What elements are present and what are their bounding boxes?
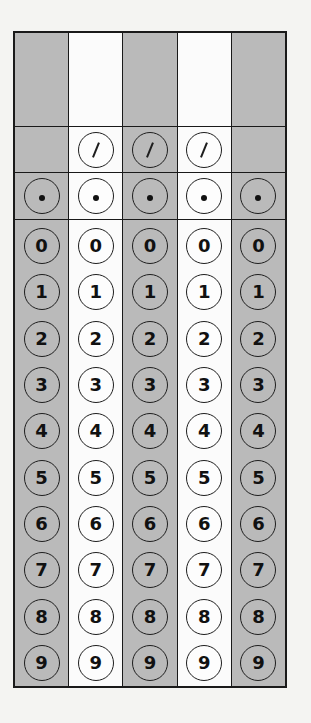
decimal-row-cell xyxy=(232,173,285,220)
digit-cell: 3 xyxy=(232,362,285,408)
digit-bubble-5[interactable]: 5 xyxy=(24,460,60,496)
digit-bubble-3[interactable]: 3 xyxy=(186,367,222,403)
digit-bubble-9[interactable]: 9 xyxy=(132,645,168,681)
answer-column-4: 0123456789 xyxy=(178,33,232,686)
digit-bubble-3[interactable]: 3 xyxy=(240,367,276,403)
digit-bubble-4[interactable]: 4 xyxy=(186,413,222,449)
digit-cell: 9 xyxy=(15,640,68,686)
digit-cell: 1 xyxy=(123,269,176,315)
grid-in-answer-sheet: 0123456789012345678901234567890123456789… xyxy=(13,31,287,688)
digit-cell: 7 xyxy=(178,547,231,593)
digit-cell: 5 xyxy=(69,454,122,500)
digit-cell: 0 xyxy=(178,223,231,269)
digit-bubble-1[interactable]: 1 xyxy=(78,274,114,310)
digit-bubble-0[interactable]: 0 xyxy=(186,228,222,264)
digit-bubbles: 0123456789 xyxy=(232,220,285,686)
digit-bubble-9[interactable]: 9 xyxy=(240,645,276,681)
digit-bubble-6[interactable]: 6 xyxy=(24,506,60,542)
digit-bubble-8[interactable]: 8 xyxy=(24,599,60,635)
digit-bubble-8[interactable]: 8 xyxy=(132,599,168,635)
digit-bubble-9[interactable]: 9 xyxy=(24,645,60,681)
slash-icon xyxy=(92,142,99,157)
digit-bubble-4[interactable]: 4 xyxy=(24,413,60,449)
digit-bubble-6[interactable]: 6 xyxy=(78,506,114,542)
dot-icon xyxy=(201,195,207,201)
decimal-point-bubble[interactable] xyxy=(186,178,222,214)
digit-bubble-4[interactable]: 4 xyxy=(240,413,276,449)
digit-bubble-9[interactable]: 9 xyxy=(186,645,222,681)
slash-bubble[interactable] xyxy=(132,132,168,168)
digit-cell: 7 xyxy=(232,547,285,593)
answer-column-5: 0123456789 xyxy=(232,33,285,686)
digit-bubble-7[interactable]: 7 xyxy=(78,552,114,588)
digit-bubble-5[interactable]: 5 xyxy=(78,460,114,496)
digit-bubble-0[interactable]: 0 xyxy=(24,228,60,264)
digit-cell: 2 xyxy=(232,316,285,362)
decimal-point-bubble[interactable] xyxy=(78,178,114,214)
digit-bubble-0[interactable]: 0 xyxy=(78,228,114,264)
digit-bubble-2[interactable]: 2 xyxy=(132,321,168,357)
digit-bubble-5[interactable]: 5 xyxy=(132,460,168,496)
answer-column-3: 0123456789 xyxy=(123,33,177,686)
digit-bubble-7[interactable]: 7 xyxy=(24,552,60,588)
dot-icon xyxy=(255,195,261,201)
digit-bubble-1[interactable]: 1 xyxy=(186,274,222,310)
digit-cell: 0 xyxy=(69,223,122,269)
digit-cell: 2 xyxy=(123,316,176,362)
decimal-point-bubble[interactable] xyxy=(132,178,168,214)
digit-bubble-4[interactable]: 4 xyxy=(78,413,114,449)
write-in-box-2[interactable] xyxy=(69,33,122,127)
decimal-point-bubble[interactable] xyxy=(24,178,60,214)
digit-bubble-2[interactable]: 2 xyxy=(186,321,222,357)
digit-bubble-1[interactable]: 1 xyxy=(240,274,276,310)
digit-bubble-5[interactable]: 5 xyxy=(240,460,276,496)
digit-bubble-7[interactable]: 7 xyxy=(132,552,168,588)
write-in-box-5[interactable] xyxy=(232,33,285,127)
decimal-point-bubble[interactable] xyxy=(240,178,276,214)
decimal-row-cell xyxy=(15,173,68,220)
digit-bubble-5[interactable]: 5 xyxy=(186,460,222,496)
digit-bubble-1[interactable]: 1 xyxy=(132,274,168,310)
digit-cell: 0 xyxy=(15,223,68,269)
dot-icon xyxy=(93,195,99,201)
digit-bubble-3[interactable]: 3 xyxy=(132,367,168,403)
digit-cell: 2 xyxy=(15,316,68,362)
digit-bubble-3[interactable]: 3 xyxy=(24,367,60,403)
digit-cell: 4 xyxy=(178,408,231,454)
digit-bubble-6[interactable]: 6 xyxy=(240,506,276,542)
digit-bubble-0[interactable]: 0 xyxy=(240,228,276,264)
digit-bubble-8[interactable]: 8 xyxy=(78,599,114,635)
digit-bubble-4[interactable]: 4 xyxy=(132,413,168,449)
digit-cell: 9 xyxy=(232,640,285,686)
answer-column-2: 0123456789 xyxy=(69,33,123,686)
digit-cell: 7 xyxy=(123,547,176,593)
digit-bubble-7[interactable]: 7 xyxy=(240,552,276,588)
digit-cell: 9 xyxy=(123,640,176,686)
digit-bubble-7[interactable]: 7 xyxy=(186,552,222,588)
digit-cell: 8 xyxy=(232,593,285,639)
digit-bubble-2[interactable]: 2 xyxy=(24,321,60,357)
slash-bubble[interactable] xyxy=(78,132,114,168)
digit-cell: 3 xyxy=(15,362,68,408)
digit-bubble-0[interactable]: 0 xyxy=(132,228,168,264)
digit-cell: 8 xyxy=(178,593,231,639)
digit-bubble-6[interactable]: 6 xyxy=(132,506,168,542)
slash-row-cell xyxy=(178,127,231,173)
slash-bubble[interactable] xyxy=(186,132,222,168)
digit-cell: 2 xyxy=(178,316,231,362)
digit-bubble-2[interactable]: 2 xyxy=(240,321,276,357)
write-in-box-4[interactable] xyxy=(178,33,231,127)
digit-bubble-1[interactable]: 1 xyxy=(24,274,60,310)
write-in-box-3[interactable] xyxy=(123,33,176,127)
slash-row-cell xyxy=(15,127,68,173)
digit-bubble-6[interactable]: 6 xyxy=(186,506,222,542)
digit-bubble-8[interactable]: 8 xyxy=(186,599,222,635)
digit-cell: 1 xyxy=(232,269,285,315)
digit-bubble-2[interactable]: 2 xyxy=(78,321,114,357)
digit-bubble-9[interactable]: 9 xyxy=(78,645,114,681)
digit-bubble-8[interactable]: 8 xyxy=(240,599,276,635)
decimal-row-cell xyxy=(123,173,176,220)
write-in-box-1[interactable] xyxy=(15,33,68,127)
digit-bubbles: 0123456789 xyxy=(69,220,122,686)
digit-bubble-3[interactable]: 3 xyxy=(78,367,114,403)
